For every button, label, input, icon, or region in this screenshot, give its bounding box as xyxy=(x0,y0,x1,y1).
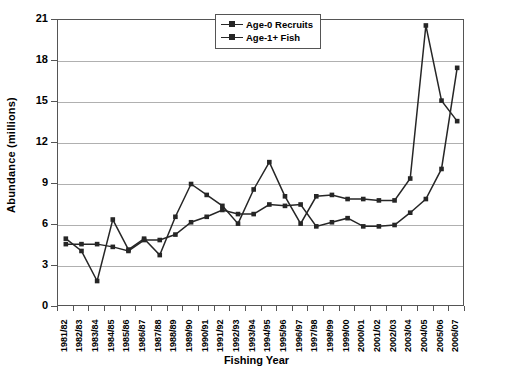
series-data-point xyxy=(79,242,84,247)
x-axis-tick-label: 1986/87 xyxy=(137,319,147,352)
series-data-point xyxy=(64,236,69,241)
series-data-point xyxy=(157,253,162,258)
x-axis-tick-label: 1992/93 xyxy=(231,319,241,352)
series-data-point xyxy=(408,176,413,181)
x-axis-tick-label: 1994/95 xyxy=(262,319,272,352)
series-data-point xyxy=(392,198,397,203)
y-axis-tick-label: 21 xyxy=(8,12,48,24)
series-data-point xyxy=(455,66,460,71)
series-data-point xyxy=(95,242,100,247)
series-data-point xyxy=(251,212,256,217)
series-data-point xyxy=(110,245,115,250)
series-data-point xyxy=(79,249,84,254)
x-axis-tick-label: 2000/01 xyxy=(356,319,366,352)
x-axis-tick-mark xyxy=(464,306,465,311)
x-axis-tick-label: 1996/97 xyxy=(294,319,304,352)
series-data-point xyxy=(298,221,303,226)
series-data-point xyxy=(330,220,335,225)
series-data-point xyxy=(283,204,288,209)
y-axis-tick-label: 15 xyxy=(8,94,48,106)
x-axis-tick-label: 1984/85 xyxy=(106,319,116,352)
x-axis-tick-label: 2002/03 xyxy=(388,319,398,352)
series-data-point xyxy=(251,187,256,192)
x-axis-tick-label: 2001/02 xyxy=(372,319,382,352)
series-data-point xyxy=(314,194,319,199)
x-axis-tick-label: 1995/96 xyxy=(278,319,288,352)
legend-line-marker-icon xyxy=(221,20,243,30)
x-axis-tick-label: 1981/82 xyxy=(59,319,69,352)
x-axis-tick-label: 1997/98 xyxy=(309,319,319,352)
series-data-point xyxy=(173,215,178,220)
x-axis-title-text: Fishing Year xyxy=(224,354,289,366)
series-data-point xyxy=(455,119,460,124)
series-data-point xyxy=(142,238,147,243)
series-data-point xyxy=(283,194,288,199)
x-axis-tick-label: 1991/92 xyxy=(215,319,225,352)
x-axis-tick-label: 1982/83 xyxy=(74,319,84,352)
series-data-point xyxy=(424,197,429,202)
x-axis-title: Fishing Year xyxy=(0,354,513,366)
data-series-layer xyxy=(58,20,465,307)
series-data-point xyxy=(126,249,131,254)
series-data-point xyxy=(424,23,429,28)
series-data-point xyxy=(173,232,178,237)
series-data-point xyxy=(314,224,319,229)
series-data-point xyxy=(204,193,209,198)
series-data-point xyxy=(345,197,350,202)
series-data-point xyxy=(189,220,194,225)
y-axis-tick-label: 6 xyxy=(8,217,48,229)
y-axis-title-text: Abundance (millions) xyxy=(5,97,17,213)
legend-label: Age-1+ Fish xyxy=(246,32,300,43)
series-data-point xyxy=(95,279,100,284)
plot-area xyxy=(57,19,464,306)
y-axis-tick-label: 9 xyxy=(8,176,48,188)
y-axis-tick-label: 12 xyxy=(8,135,48,147)
legend-item-age-1-plus-fish: Age-1+ Fish xyxy=(221,31,313,44)
series-data-point xyxy=(439,98,444,103)
legend-line-marker-icon xyxy=(221,33,243,43)
series-data-point xyxy=(157,238,162,243)
legend-item-age-0-recruits: Age-0 Recruits xyxy=(221,18,313,31)
x-axis-tick-labels: 1981/821982/831983/841984/851985/861986/… xyxy=(57,308,464,352)
x-axis-tick-label: 1989/90 xyxy=(184,319,194,352)
x-axis-tick-label: 1983/84 xyxy=(90,319,100,352)
chart-legend: Age-0 Recruits Age-1+ Fish xyxy=(215,14,321,49)
y-axis-tick-label: 3 xyxy=(8,258,48,270)
series-data-point xyxy=(345,216,350,221)
series-data-point xyxy=(377,198,382,203)
x-axis-tick-label: 2004/05 xyxy=(419,319,429,352)
series-data-point xyxy=(408,210,413,215)
y-axis-tick-label: 0 xyxy=(8,299,48,311)
chart-figure: Abundance (millions) 036912151821 1981/8… xyxy=(0,0,513,377)
series-data-point xyxy=(189,182,194,187)
series-data-point xyxy=(361,224,366,229)
series-data-point xyxy=(361,197,366,202)
series-data-point xyxy=(330,193,335,198)
series-data-point xyxy=(220,204,225,209)
x-axis-tick-label: 2003/04 xyxy=(403,319,413,352)
series-line xyxy=(66,25,457,281)
x-axis-tick-label: 1988/89 xyxy=(168,319,178,352)
series-data-point xyxy=(267,160,272,165)
x-axis-tick-label: 1993/94 xyxy=(247,319,257,352)
x-axis-tick-label: 1987/88 xyxy=(153,319,163,352)
series-data-point xyxy=(392,223,397,228)
series-data-point xyxy=(439,167,444,172)
series-data-point xyxy=(267,202,272,207)
x-axis-tick-label: 2005/06 xyxy=(435,319,445,352)
x-axis-tick-label: 2006/07 xyxy=(450,319,460,352)
series-data-point xyxy=(377,224,382,229)
series-data-point xyxy=(220,208,225,213)
x-axis-tick-label: 1999/00 xyxy=(341,319,351,352)
x-axis-tick-label: 1985/86 xyxy=(121,319,131,352)
y-axis-tick-label: 18 xyxy=(8,53,48,65)
x-axis-tick-label: 1990/91 xyxy=(200,319,210,352)
series-data-point xyxy=(236,212,241,217)
series-data-point xyxy=(204,215,209,220)
x-axis-tick-label: 1998/99 xyxy=(325,319,335,352)
series-data-point xyxy=(236,221,241,226)
series-line xyxy=(66,68,457,251)
series-data-point xyxy=(64,242,69,247)
series-data-point xyxy=(110,217,115,222)
series-data-point xyxy=(298,202,303,207)
